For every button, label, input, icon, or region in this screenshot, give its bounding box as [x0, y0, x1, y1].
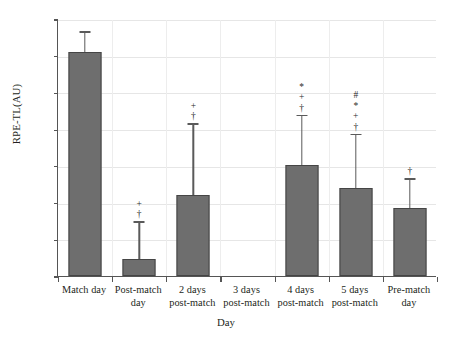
significance-marker: † [180, 111, 206, 121]
significance-marker: † [289, 103, 315, 113]
plot-area: 0100200300400500600700+†+†*+†#*+†† [57, 20, 436, 277]
x-tick-mark [437, 277, 438, 282]
significance-markers: † [397, 166, 423, 176]
error-bar-cap [296, 115, 307, 116]
significance-markers: #*+† [343, 90, 369, 132]
significance-marker: † [343, 122, 369, 132]
significance-markers: +† [180, 101, 206, 122]
x-tick-mark [275, 277, 276, 282]
bar-group: +† [166, 20, 220, 276]
x-category-label-line: Pre-match [367, 283, 451, 296]
bar-group [220, 20, 274, 276]
significance-marker: + [180, 101, 206, 111]
bar [339, 188, 372, 276]
bar [393, 208, 426, 276]
error-bar-cap [350, 134, 361, 135]
significance-marker: + [126, 199, 152, 209]
error-bar-cap [134, 221, 145, 222]
error-bar [84, 33, 85, 52]
error-bar-cap [404, 178, 415, 179]
x-category-label-line: day [367, 296, 451, 309]
bar-group: +† [112, 20, 166, 276]
significance-markers: *+† [289, 82, 315, 113]
x-category-label: Pre-matchday [367, 283, 451, 309]
y-axis-title: RPE-TL(AU) [10, 54, 22, 174]
significance-marker: † [126, 209, 152, 219]
x-tick-mark [220, 277, 221, 282]
error-bar [355, 135, 356, 188]
bar [177, 195, 210, 277]
significance-marker: # [343, 90, 369, 100]
error-bar-cap [80, 31, 91, 32]
significance-marker: * [343, 101, 369, 111]
bar [69, 52, 102, 276]
bar-group [58, 20, 112, 276]
bar [285, 165, 318, 276]
error-bar [139, 223, 140, 259]
x-tick-mark [58, 277, 59, 282]
significance-marker: + [289, 92, 315, 102]
significance-markers: +† [126, 199, 152, 220]
error-bar [301, 116, 302, 164]
error-bar [193, 125, 194, 195]
significance-marker: † [397, 166, 423, 176]
error-bar-cap [188, 123, 199, 124]
x-tick-mark [112, 277, 113, 282]
x-tick-mark [383, 277, 384, 282]
significance-marker: + [343, 111, 369, 121]
x-axis-title: Day [0, 316, 452, 328]
bar-group: † [383, 20, 437, 276]
bar-group: #*+† [329, 20, 383, 276]
error-bar [409, 180, 410, 208]
x-tick-mark [329, 277, 330, 282]
chart-figure: 0100200300400500600700+†+†*+†#*+†† RPE-T… [0, 0, 452, 337]
bar-group: *+† [275, 20, 329, 276]
significance-marker: * [289, 82, 315, 92]
x-tick-mark [166, 277, 167, 282]
bar [123, 259, 156, 276]
